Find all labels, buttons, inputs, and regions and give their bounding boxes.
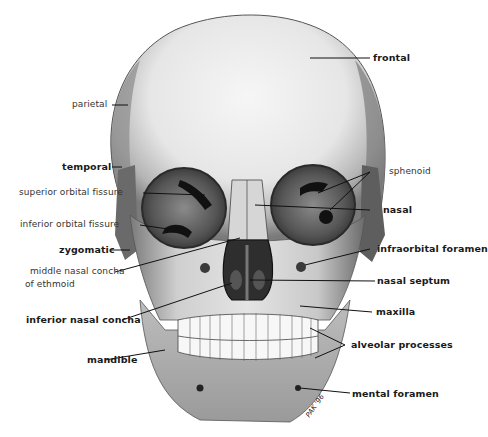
label-maxilla: maxilla [376, 306, 415, 317]
label-middle-nasal-concha-of-ethmoid: of ethmoid [25, 279, 75, 290]
label-parietal: parietal [72, 99, 107, 110]
label-inferior-orbital-fissure: inferior orbital fissure [20, 219, 119, 230]
label-temporal: temporal [62, 161, 111, 172]
label-frontal: frontal [373, 52, 410, 63]
label-infraorbital-foramen: infraorbital foramen [377, 243, 488, 254]
label-middle-nasal-concha: middle nasal concha [30, 266, 125, 277]
label-inferior-nasal-concha: inferior nasal concha [26, 314, 141, 325]
label-mandible: mandible [87, 354, 137, 365]
teeth [178, 313, 318, 361]
label-alveolar-processes: alveolar processes [351, 339, 453, 350]
label-zygomatic: zygomatic [59, 244, 115, 255]
label-sphenoid: sphenoid [389, 166, 431, 177]
label-nasal-septum: nasal septum [377, 275, 450, 286]
label-superior-orbital-fissure: superior orbital fissure [19, 187, 123, 198]
label-nasal: nasal [383, 204, 412, 215]
label-mental-foramen: mental foramen [352, 388, 439, 399]
